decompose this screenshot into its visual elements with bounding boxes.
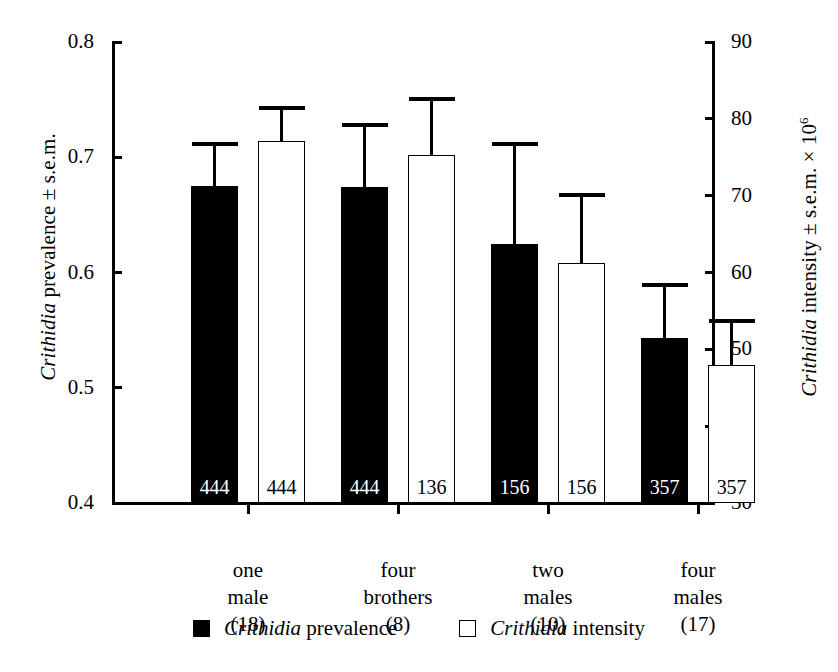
legend-label-rest: prevalence <box>301 616 397 640</box>
error-bar-stem <box>430 97 433 155</box>
chart-figure: Crithidia prevalence ± s.e.m. Crithidia … <box>0 0 838 672</box>
left-axis-tick-label: 0.8 <box>68 31 94 52</box>
right-axis-tick <box>705 117 712 120</box>
bar-value-label: 444 <box>192 477 237 497</box>
error-bar <box>258 106 305 141</box>
x-axis-group-label-line: males <box>608 584 788 611</box>
left-axis-title-rest: prevalence ± s.e.m. <box>36 133 60 303</box>
right-axis-tick <box>705 41 712 44</box>
error-bar-stem <box>580 193 583 263</box>
error-bar <box>408 97 455 155</box>
bar-filled[interactable]: 444 <box>191 186 238 503</box>
legend-swatch-filled-icon <box>193 620 210 637</box>
error-bar <box>558 193 605 263</box>
left-axis-tick-label: 0.6 <box>68 262 94 283</box>
legend-label-rest: intensity <box>567 616 645 640</box>
error-bar-cap <box>642 283 688 287</box>
error-bar-stem <box>730 319 733 364</box>
bar-value-label: 357 <box>642 477 687 497</box>
error-bar <box>341 123 388 188</box>
error-bar-stem <box>663 283 666 338</box>
legend-item[interactable]: Crithidia prevalence <box>193 616 397 641</box>
left-axis-tick-label: 0.5 <box>68 377 94 398</box>
legend-label: Crithidia prevalence <box>224 616 397 641</box>
left-axis-tick <box>115 41 122 44</box>
left-axis-tick-label: 0.7 <box>68 146 94 167</box>
bar-value-label: 444 <box>259 477 304 497</box>
error-bar-cap <box>559 193 605 197</box>
error-bar <box>191 142 238 186</box>
left-axis-tick <box>115 156 122 159</box>
chart-legend: Crithidia prevalenceCrithidia intensity <box>0 616 838 641</box>
error-bar-cap <box>342 123 388 127</box>
right-axis-tick <box>705 271 712 274</box>
legend-item[interactable]: Crithidia intensity <box>459 616 645 641</box>
error-bar-cap <box>259 106 305 110</box>
left-axis-tick <box>115 502 122 505</box>
plot-area: 0.80.70.60.50.4 90807060504030 444444444… <box>112 42 715 503</box>
left-axis-title-italic: Crithidia <box>36 303 60 381</box>
x-axis-tick <box>697 505 700 514</box>
bar-value-label: 357 <box>709 477 754 497</box>
bar-filled[interactable]: 444 <box>341 187 388 503</box>
right-axis-tick <box>705 194 712 197</box>
right-axis-title-superscript: 6 <box>796 117 811 124</box>
bar-value-label: 156 <box>559 477 604 497</box>
x-axis-tick <box>547 505 550 514</box>
legend-swatch-open-icon <box>459 620 476 637</box>
error-bar <box>641 283 688 338</box>
x-axis-group-label-line: four <box>608 557 788 584</box>
bar-value-label: 444 <box>342 477 387 497</box>
bar-value-label: 136 <box>409 477 454 497</box>
x-axis-tick <box>247 505 250 514</box>
error-bar-stem <box>280 106 283 141</box>
right-axis-title-italic: Crithidia <box>797 319 821 397</box>
bar-filled[interactable]: 156 <box>491 244 538 503</box>
error-bar-cap <box>709 319 755 323</box>
error-bar <box>491 142 538 243</box>
error-bar-cap <box>192 142 238 146</box>
legend-label-italic: Crithidia <box>224 616 301 640</box>
right-axis-tick-label: 80 <box>731 108 752 129</box>
error-bar-cap <box>409 97 455 101</box>
error-bar-stem <box>213 142 216 186</box>
left-axis-tick <box>115 386 122 389</box>
bar-open[interactable]: 156 <box>558 263 605 503</box>
bar-filled[interactable]: 357 <box>641 338 688 503</box>
legend-label-italic: Crithidia <box>490 616 567 640</box>
right-axis-tick-label: 60 <box>731 262 752 283</box>
left-axis-tick-label: 0.4 <box>68 492 94 513</box>
right-axis-title: Crithidia intensity ± s.e.m. × 106 <box>790 22 818 492</box>
error-bar-stem <box>513 142 516 243</box>
left-axis-tick <box>115 271 122 274</box>
legend-label: Crithidia intensity <box>490 616 645 641</box>
bar-open[interactable]: 357 <box>708 365 755 503</box>
bar-open[interactable]: 444 <box>258 141 305 503</box>
right-axis-tick-label: 70 <box>731 185 752 206</box>
error-bar-stem <box>363 123 366 188</box>
right-axis-tick-label: 90 <box>731 31 752 52</box>
bar-open[interactable]: 136 <box>408 155 455 503</box>
right-axis-title-rest: intensity ± s.e.m. × 10 <box>797 124 821 319</box>
left-axis-title: Crithidia prevalence ± s.e.m. <box>34 22 62 492</box>
bar-value-label: 156 <box>492 477 537 497</box>
error-bar <box>708 319 755 364</box>
x-axis-tick <box>397 505 400 514</box>
error-bar-cap <box>492 142 538 146</box>
